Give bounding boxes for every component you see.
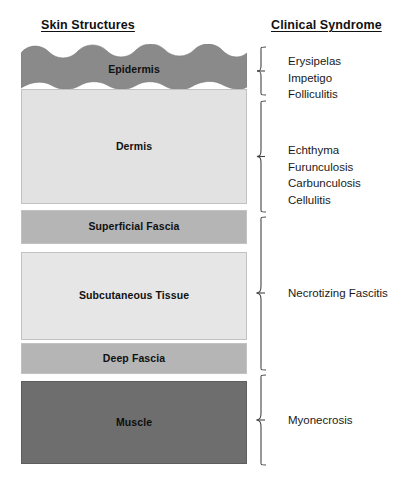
syndrome-item: Carbunculosis <box>288 175 361 192</box>
syndrome-item: Folliculitis <box>288 86 341 103</box>
syndrome-list-muscle: Myonecrosis <box>288 412 353 429</box>
layer-label-superficial-fascia: Superficial Fascia <box>88 221 179 233</box>
curly-brace-icon <box>256 46 278 96</box>
curly-brace-icon <box>256 374 278 466</box>
syndrome-list-fascia: Necrotizing Fascitis <box>288 285 388 302</box>
layer-dermis: Dermis <box>21 89 247 204</box>
layer-label-muscle: Muscle <box>116 417 152 429</box>
layer-superficial-fascia: Superficial Fascia <box>21 210 247 244</box>
layer-label-dermis: Dermis <box>116 141 152 153</box>
syndrome-item: Impetigo <box>288 70 341 87</box>
syndrome-item: Echthyma <box>288 142 361 159</box>
bracket-group-fascia <box>256 216 278 371</box>
syndrome-list-dermis: Echthyma Furunculosis Carbunculosis Cell… <box>288 142 361 208</box>
skin-layers-diagram: Skin Structures Clinical Syndrome Epider… <box>0 0 408 487</box>
bracket-group-epidermis <box>256 46 278 96</box>
layer-subcutaneous-tissue: Subcutaneous Tissue <box>21 252 247 340</box>
syndrome-item: Necrotizing Fascitis <box>288 285 388 302</box>
layer-label-deep-fascia: Deep Fascia <box>103 353 165 365</box>
syndrome-item: Cellulitis <box>288 192 361 209</box>
curly-brace-icon <box>256 100 278 213</box>
layer-label-subcutaneous-tissue: Subcutaneous Tissue <box>79 290 189 302</box>
syndrome-item: Myonecrosis <box>288 412 353 429</box>
syndrome-item: Erysipelas <box>288 53 341 70</box>
layer-muscle: Muscle <box>21 381 247 464</box>
syndrome-item: Furunculosis <box>288 159 361 176</box>
syndrome-list-epidermis: Erysipelas Impetigo Folliculitis <box>288 53 341 103</box>
curly-brace-icon <box>256 216 278 371</box>
column-header-skin-structures: Skin Structures <box>41 18 135 32</box>
column-header-clinical-syndrome: Clinical Syndrome <box>271 18 382 32</box>
bracket-group-dermis <box>256 100 278 213</box>
bracket-group-muscle <box>256 374 278 466</box>
layer-deep-fascia: Deep Fascia <box>21 343 247 374</box>
